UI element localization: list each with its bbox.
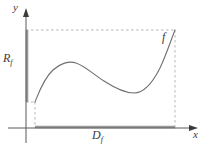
- function-graph-figure: y x Rf Df f: [0, 0, 205, 151]
- function-curve: [35, 30, 175, 102]
- domain-label: Df: [92, 129, 103, 144]
- range-label-subscript: f: [10, 58, 12, 67]
- domain-label-subscript: f: [101, 135, 103, 144]
- y-axis-label: y: [13, 2, 18, 13]
- function-curve-label: f: [162, 31, 165, 43]
- y-axis-arrowhead: [23, 8, 29, 17]
- range-label: Rf: [3, 52, 13, 67]
- domain-label-letter: D: [92, 128, 101, 142]
- x-axis-label: x: [193, 129, 198, 140]
